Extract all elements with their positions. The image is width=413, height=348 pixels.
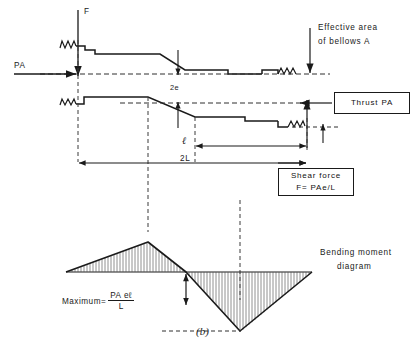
maximum-numerator: PA eℓ	[108, 291, 134, 301]
pressure-PA-label: PA	[14, 60, 26, 72]
thrust-callout-text: Thrust PA	[351, 97, 393, 109]
shear-force-callout-line1: Shear force	[291, 170, 341, 182]
figure-root: F PA 2e ℓ 2L Effective area of bellows A…	[0, 0, 413, 348]
figure-caption: (b)	[196, 325, 209, 337]
bmd-curve	[66, 242, 312, 331]
effective-area-label-line2: of bellows A	[318, 36, 370, 48]
bending-moment-label-line2: diagram	[337, 261, 371, 273]
bmd-hatch-negative	[189, 272, 309, 331]
station-dashed-lines	[78, 40, 307, 300]
maximum-prefix: Maximum=	[62, 297, 106, 306]
shear-force-callout-line2: F= PAe/L	[296, 182, 335, 194]
lower-pipe-profile	[60, 97, 278, 121]
length-2L-label: 2L	[180, 153, 191, 165]
bellows-left-lower	[60, 99, 76, 105]
lower-pipe-right-bellows	[278, 121, 305, 127]
force-F-label: F	[84, 6, 90, 18]
upper-pipe-profile	[60, 41, 262, 74]
maximum-formula: Maximum= PA eℓ L	[62, 291, 134, 311]
offset-2e-label: 2e	[170, 83, 179, 94]
upper-pipe-right-bellows	[262, 68, 296, 74]
bending-moment-label-line1: Bending moment	[320, 247, 392, 259]
effective-area-label-line1: Effective area	[318, 22, 378, 34]
length-l-label: ℓ	[182, 134, 187, 149]
bellows-left-upper	[60, 41, 76, 48]
bmd-hatch-positive	[69, 243, 183, 272]
maximum-denominator: L	[108, 301, 134, 311]
shear-force-callout-box: Shear force F= PAe/L	[278, 168, 354, 196]
thrust-callout-box: Thrust PA	[334, 92, 410, 114]
